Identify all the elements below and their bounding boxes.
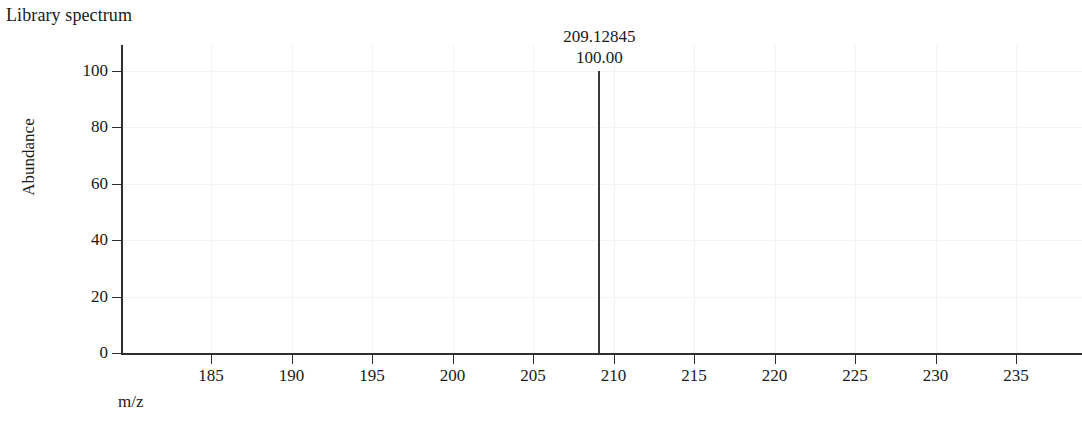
x-axis-tick-label: 190: [262, 366, 322, 386]
gridline-horizontal: [122, 71, 1082, 72]
gridline-vertical: [372, 45, 373, 353]
y-axis-tick-label: 0: [64, 344, 108, 361]
x-axis-tick: [372, 355, 373, 364]
x-axis-tick-label: 195: [342, 366, 402, 386]
gridline-horizontal: [122, 184, 1082, 185]
x-axis-tick-label: 220: [745, 366, 805, 386]
y-axis-tick: [112, 240, 122, 241]
x-axis-title: m/z: [118, 392, 144, 412]
x-axis-tick-label: 205: [503, 366, 563, 386]
y-axis-tick: [112, 127, 122, 128]
x-axis-tick: [694, 355, 695, 364]
mass-spectrum-figure: Library spectrum Abundance m/z 020406080…: [0, 0, 1082, 422]
y-axis-tick-label: 60: [64, 175, 108, 192]
x-axis-tick: [292, 355, 293, 364]
peak-label-abundance: 100.00: [563, 47, 635, 68]
gridline-vertical: [855, 45, 856, 353]
x-axis-tick-label: 200: [423, 366, 483, 386]
y-axis-tick: [112, 184, 122, 185]
x-axis-tick-label: 215: [664, 366, 724, 386]
x-axis-tick-label: 225: [825, 366, 885, 386]
y-axis-line: [121, 45, 123, 354]
gridline-vertical: [453, 45, 454, 353]
gridline-vertical: [614, 45, 615, 353]
gridline-horizontal: [122, 297, 1082, 298]
gridline-vertical: [292, 45, 293, 353]
gridline-vertical: [694, 45, 695, 353]
y-axis-tick-label: 20: [64, 288, 108, 305]
x-axis-line: [121, 353, 1082, 355]
x-axis-tick-label: 210: [584, 366, 644, 386]
x-axis-tick: [855, 355, 856, 364]
gridline-vertical: [533, 45, 534, 353]
peak-label-mz: 209.12845: [563, 26, 635, 47]
x-axis-tick-label: 185: [181, 366, 241, 386]
gridline-vertical: [775, 45, 776, 353]
gridline-vertical: [936, 45, 937, 353]
x-axis-tick: [533, 355, 534, 364]
x-axis-tick: [1016, 355, 1017, 364]
y-axis-tick-label: 80: [64, 118, 108, 135]
peak-label: 209.12845100.00: [563, 26, 635, 68]
x-axis-tick: [936, 355, 937, 364]
y-axis-title: Abundance: [20, 92, 38, 222]
x-axis-tick-label: 230: [906, 366, 966, 386]
gridline-horizontal: [122, 240, 1082, 241]
gridline-vertical: [211, 45, 212, 353]
spectrum-peak: [598, 71, 600, 353]
x-axis-tick: [211, 355, 212, 364]
y-axis-tick: [112, 353, 122, 354]
gridline-horizontal: [122, 127, 1082, 128]
figure-title: Library spectrum: [6, 4, 132, 26]
plot-area: [122, 45, 1082, 353]
y-axis-tick: [112, 71, 122, 72]
y-axis-tick-label: 40: [64, 231, 108, 248]
x-axis-tick-label: 235: [986, 366, 1046, 386]
y-axis-tick-label: 100: [64, 62, 108, 79]
x-axis-tick: [453, 355, 454, 364]
y-axis-tick: [112, 297, 122, 298]
x-axis-tick: [614, 355, 615, 364]
x-axis-tick: [775, 355, 776, 364]
gridline-vertical: [1016, 45, 1017, 353]
